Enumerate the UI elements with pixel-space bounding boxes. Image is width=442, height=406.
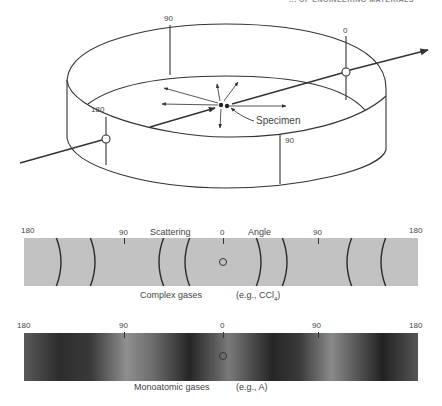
complex-example: (e.g., CCl4) xyxy=(236,291,280,302)
beam-hole xyxy=(219,352,227,360)
incident-beam-outside xyxy=(20,140,102,163)
mono-caption: Monoatomic gases xyxy=(134,383,210,392)
complex-label-90-left: 90 xyxy=(119,229,128,237)
complex-example-close: ) xyxy=(277,290,280,300)
debye-camera-diagram xyxy=(0,0,442,230)
scatter-ray xyxy=(217,84,220,101)
complex-gases-film-strip xyxy=(24,238,418,286)
complex-title-angle: Angle xyxy=(248,228,271,237)
tick-0 xyxy=(223,332,224,338)
transmitted-beam-outside xyxy=(350,50,428,70)
scatter-ray xyxy=(224,82,238,101)
cylinder-front-rim xyxy=(67,80,386,137)
exit-port xyxy=(342,68,350,76)
complex-title-scattering: Scattering xyxy=(150,228,191,237)
angle-label-90-front: 90 xyxy=(285,137,294,145)
mono-example: (e.g., A) xyxy=(236,383,268,392)
cylinder-bottom-rim xyxy=(67,138,386,188)
tick-90-right xyxy=(318,332,319,338)
complex-label-90-right: 90 xyxy=(313,229,322,237)
mono-label-90-left: 90 xyxy=(119,322,128,330)
scatter-ray xyxy=(164,88,218,103)
angle-label-0: 0 xyxy=(343,27,347,35)
scatter-ray xyxy=(220,109,221,128)
tick-90-left xyxy=(124,238,125,244)
specimen-label: Specimen xyxy=(256,116,300,126)
entry-port xyxy=(102,135,110,143)
mono-label-180-left: 180 xyxy=(17,322,30,330)
specimen-pointer xyxy=(231,108,254,121)
complex-caption: Complex gases xyxy=(140,291,202,300)
mono-label-90-right: 90 xyxy=(312,322,321,330)
tick-90-left xyxy=(124,332,125,338)
incident-beam-inside xyxy=(150,108,215,127)
complex-example-text: (e.g., CCl xyxy=(236,290,274,300)
tick-0 xyxy=(223,238,224,244)
beam-hole xyxy=(219,258,227,266)
scatter-ray xyxy=(162,104,218,105)
angle-label-90-back: 90 xyxy=(164,15,173,23)
complex-label-0: 0 xyxy=(220,229,224,237)
mono-label-180-right: 180 xyxy=(409,322,422,330)
angle-label-180: 180 xyxy=(91,106,104,114)
specimen-dot xyxy=(219,103,223,107)
complex-label-180-right: 180 xyxy=(409,227,422,235)
monoatomic-gases-film-strip xyxy=(24,333,418,381)
specimen-dot xyxy=(225,104,229,108)
tick-90-right xyxy=(318,238,319,244)
complex-label-180-left: 180 xyxy=(21,227,34,235)
cylinder-top-rim xyxy=(67,24,386,88)
transmitted-beam-inside xyxy=(232,73,342,104)
mono-label-0: 0 xyxy=(220,322,224,330)
